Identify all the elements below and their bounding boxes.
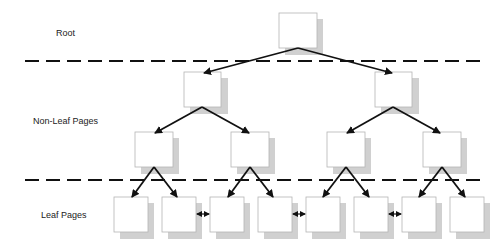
btree-diagram <box>0 0 490 249</box>
non-leaf-pages-level1 <box>184 72 419 114</box>
leaf-pages <box>114 197 490 239</box>
non-leaf-pages-level2 <box>135 132 467 174</box>
edges <box>132 48 465 214</box>
